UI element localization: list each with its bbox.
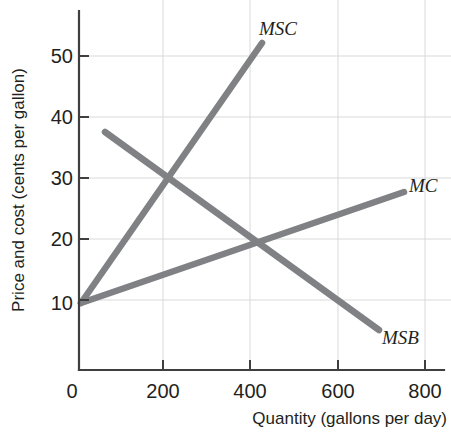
x-tick-label-200: 200	[146, 380, 179, 402]
series-curves	[81, 43, 404, 330]
y-tick-marks	[79, 56, 89, 300]
x-tick-marks	[163, 360, 425, 370]
x-axis-title: Quantity (gallons per day)	[252, 409, 447, 428]
x-tick-label-800: 800	[408, 380, 441, 402]
curve-mc	[81, 192, 404, 303]
y-tick-label-40: 40	[51, 106, 73, 128]
y-tick-labels: 50 40 30 20 10	[51, 45, 73, 314]
gridlines-horizontal	[79, 56, 451, 300]
series-label-mc: MC	[408, 175, 438, 196]
chart-plot-area: 50 40 30 20 10 0 200 400 600 800 Quantit…	[0, 0, 451, 432]
series-label-msb: MSB	[381, 327, 419, 348]
x-tick-label-0: 0	[66, 380, 77, 402]
y-tick-label-20: 20	[51, 228, 73, 250]
curve-msc	[81, 43, 262, 303]
series-label-msc: MSC	[258, 18, 297, 39]
x-tick-label-600: 600	[321, 380, 354, 402]
y-tick-label-30: 30	[51, 167, 73, 189]
y-tick-label-10: 10	[51, 292, 73, 314]
y-tick-label-50: 50	[51, 45, 73, 67]
chart-figure: 50 40 30 20 10 0 200 400 600 800 Quantit…	[0, 0, 451, 432]
x-tick-labels: 0 200 400 600 800	[66, 380, 441, 402]
y-axis-title: Price and cost (cents per gallon)	[9, 68, 28, 312]
axes-lines	[79, 11, 444, 370]
x-tick-label-400: 400	[233, 380, 266, 402]
